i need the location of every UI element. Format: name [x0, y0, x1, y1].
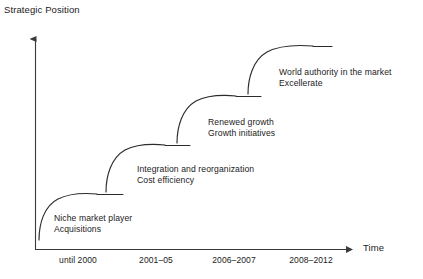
stage-annotation-4-headline: World authority in the market — [279, 67, 392, 77]
x-tick-label-2: 2001–05 — [139, 255, 173, 265]
y-axis-title: Strategic Position — [4, 4, 80, 15]
stage-annotation-1-headline: Niche market player — [54, 213, 132, 223]
stage-annotation-3-detail: Growth initiatives — [208, 128, 275, 139]
x-tick-label-3: 2006–2007 — [212, 255, 255, 265]
stage-annotation-1-detail: Acquisitions — [54, 224, 132, 235]
x-tick-label-1: until 2000 — [59, 255, 97, 265]
stage-annotation-2-detail: Cost efficiency — [137, 175, 254, 186]
stage-annotation-4-detail: Excellerate — [279, 78, 392, 89]
stage-annotation-1: Niche market player Acquisitions — [54, 213, 132, 236]
stage-annotation-3: Renewed growth Growth initiatives — [208, 117, 275, 140]
x-axis-title: Time — [363, 242, 384, 253]
stage-annotation-2-headline: Integration and reorganization — [137, 164, 254, 174]
stage-annotation-4: World authority in the market Excellerat… — [279, 67, 392, 90]
x-tick-label-4: 2008–2012 — [289, 255, 332, 265]
strategic-position-diagram: Strategic Position Time until 2000 2001–… — [0, 0, 423, 279]
stage-annotation-2: Integration and reorganization Cost effi… — [137, 164, 254, 187]
stage-annotation-3-headline: Renewed growth — [208, 117, 274, 127]
